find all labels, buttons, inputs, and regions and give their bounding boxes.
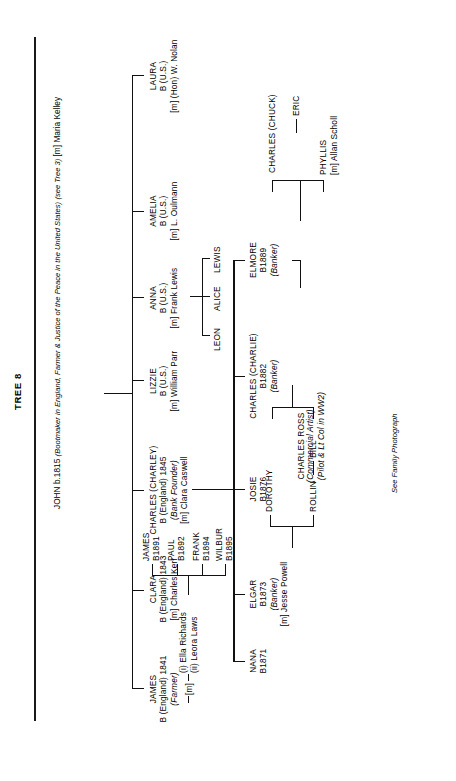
person-spouse: [m] Frank Lewis [169, 248, 179, 348]
person-spouse: [m] Allan Scholl [329, 75, 339, 175]
person-occupation: (Banker) [269, 547, 279, 641]
person-chuck: CHARLES (CHUCK) [267, 94, 277, 173]
gen2-stub-amelia [132, 211, 144, 212]
root-spouse: [m] Maria Kelley [52, 97, 62, 156]
person-amelia: AMELIA B (U.S.) [m] L. Oulmann [148, 161, 179, 261]
anna-child-stub-lewis [202, 258, 210, 259]
elmore-children-bus [292, 260, 300, 261]
elgar-child-stub-rollin [313, 515, 314, 527]
james-marriage-mark: [m] [184, 683, 194, 695]
elmore-to-split [300, 181, 301, 221]
elmore-split-bus [272, 180, 324, 181]
person-name: LAURA [148, 21, 158, 131]
james-marriage-line-left [188, 696, 189, 703]
gen2-stub-clara [132, 590, 144, 591]
person-name: AMELIA [148, 161, 158, 261]
person-name: CHARLES (CHUCK) [267, 94, 277, 173]
gen2-stub-charley [132, 490, 144, 491]
root-drop-line [104, 393, 132, 394]
person-james: JAMES B (England) 1841 (Farmer) [148, 639, 179, 739]
person-name: LEON [212, 328, 222, 351]
person-anna: ANNA B (U.S.) [m] Frank Lewis [148, 248, 179, 348]
charley-child-stub-elgar [233, 594, 245, 595]
charlie-children-connector [292, 385, 293, 407]
person-occupation: (Commercial Artist) [305, 381, 315, 511]
person-occupation: (Banker) [269, 315, 279, 437]
person-spouse: [m] Jesse Powell [279, 547, 289, 641]
chuck-child-line [296, 119, 297, 133]
james-children-connector [188, 575, 189, 595]
person-name: ELGAR [248, 547, 258, 641]
person-name: CHARLES (CHARLIE) [248, 315, 258, 437]
person-occupation: (Bank Founder) [169, 421, 179, 559]
person-alice: ALICE [212, 286, 222, 311]
person-eric: ERIC [291, 96, 301, 116]
genealogy-page: TREE 8 JOHN b.1815 (Bootmaker in England… [0, 0, 456, 781]
person-spouse: [m] (Hon) W. Nolan [169, 21, 179, 131]
elmore-bus-horizontal [300, 260, 301, 288]
root-birth: b.1815 [52, 459, 62, 484]
person-name: ELMORE [248, 219, 258, 301]
person-spouse: [m] L. Oulmann [169, 161, 179, 261]
person-name: WILBUR [214, 528, 224, 561]
person-josie: JOSIE B1876 [248, 449, 269, 529]
james-child-stub-4 [225, 564, 226, 576]
person-laura: LAURA B (U.S.) [m] (Hon) W. Nolan [148, 21, 179, 131]
charley-drop-line [192, 489, 233, 490]
anna-child-stub-alice [202, 296, 210, 297]
person-birth: B (U.S.) [158, 248, 168, 348]
person-lewis: LEWIS [212, 246, 222, 273]
james-spouse-1: (i) Ella Richards [178, 612, 188, 673]
person-birth: B (U.S.) [158, 21, 168, 131]
person-name: ALICE [212, 286, 222, 311]
family-photograph-annotation: See Family Photograph [390, 414, 399, 493]
gen2-stub-laura [132, 75, 144, 76]
root-occupation: (Bootmaker in England, Farmer & Justice … [53, 202, 62, 457]
page-top-rule [34, 37, 36, 721]
gen2-stub-anna [132, 297, 144, 298]
charley-child-stub-charlie [233, 376, 245, 377]
person-name: JAMES [148, 639, 158, 739]
root-name: JOHN [52, 486, 62, 509]
person-elmore: ELMORE B1889 (Banker) [248, 219, 279, 301]
elgar-children-bus [270, 526, 314, 527]
person-leon: LEON [212, 328, 222, 351]
person-elgar: ELGAR B1873 (Banker) [m] Jesse Powell [248, 547, 290, 641]
person-james-child-4: WILBUR B1895 [214, 528, 235, 561]
elgar-children-connector [292, 526, 293, 548]
elmore-split-stub-phyllis [323, 180, 324, 192]
person-birth: B (England) 1841 [158, 639, 168, 739]
person-james-child-3: FRANK B1894 [191, 532, 212, 561]
james-child-stub-3 [202, 564, 203, 576]
person-birth: B (England) 1845 [158, 421, 168, 559]
page-title: TREE 8 [12, 373, 23, 410]
person-name: ERIC [291, 96, 301, 116]
tree-canvas: TREE 8 JOHN b.1815 (Bootmaker in England… [0, 0, 456, 781]
person-charlie: CHARLES (CHARLIE) B1882 (Banker) [248, 315, 279, 437]
person-spouse: [m] Clara Caswell [179, 421, 189, 559]
person-name: JOSIE [248, 449, 258, 529]
person-birth: B (U.S.) [158, 161, 168, 261]
anna-children-connector [190, 296, 202, 297]
person-note: (Pilot & Lt Col in WW2) [316, 361, 326, 511]
elgar-child-stub-dorothy [270, 515, 271, 527]
person-birth: B1876 [258, 449, 268, 529]
root-person-john: JOHN b.1815 (Bootmaker in England, Farme… [52, 279, 63, 509]
generation2-bus [132, 75, 133, 689]
person-birth: B1889 [258, 219, 268, 301]
james-marriage-line-right [188, 674, 189, 681]
person-name: ANNA [148, 248, 158, 348]
charley-child-stub-elmore [233, 260, 245, 261]
anna-children-bus [202, 258, 203, 336]
person-occupation: (Banker) [269, 219, 279, 301]
charley-children-bus [233, 489, 235, 662]
gen2-stub-lizzie [132, 380, 144, 381]
person-name: CHARLES (CHARLEY) [148, 421, 158, 559]
person-birth: B1873 [258, 547, 268, 641]
gen2-stub-james [132, 688, 144, 689]
person-birth: B1894 [201, 532, 211, 561]
root-reference: (see Tree 3) [53, 159, 62, 200]
person-birth: B1882 [258, 315, 268, 437]
person-name: PHYLLIS [318, 105, 328, 175]
james-spouse-2: (ii) Leora Laws [189, 616, 199, 673]
